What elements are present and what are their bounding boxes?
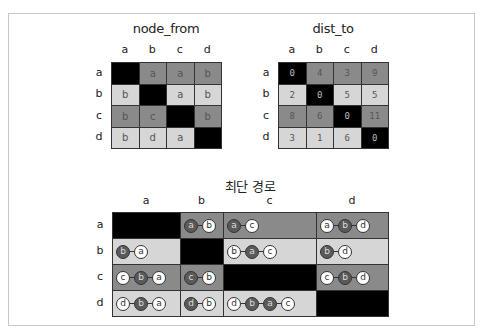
dist-to-cell: 3 (278, 127, 307, 150)
dist-to-col-header-a: a (278, 43, 306, 56)
node-from-matrix: aabbabbcbbda (111, 62, 221, 148)
dist-to-cell: 2 (278, 84, 307, 107)
shortest-path-cell: ba (112, 238, 181, 265)
path-chain: abd (320, 219, 370, 233)
node-from-cell: c (139, 105, 168, 128)
shortest-path-cell: bac (223, 238, 317, 265)
path-node-b: b (338, 219, 352, 233)
path-chain: dbac (227, 297, 295, 311)
path-node-d: d (356, 271, 370, 285)
node-from-cell: a (166, 127, 195, 150)
node-from-title: node_from (111, 21, 221, 36)
path-node-b: b (134, 297, 148, 311)
shortest-path-cell: db (180, 290, 224, 317)
path-node-b: b (320, 245, 334, 259)
path-node-b: b (338, 271, 352, 285)
dist-to-row-header-c: c (260, 109, 272, 122)
dist-to-col-header-c: c (333, 43, 361, 56)
path-chain: cbd (320, 271, 370, 285)
path-chain: bd (320, 245, 352, 259)
shortest-path-cell: bd (316, 238, 389, 265)
shortest-path-cell (112, 212, 181, 239)
node-from-cell: a (166, 84, 195, 107)
shortest-path-cell: abd (316, 212, 389, 239)
node-from-cell: b (194, 62, 223, 85)
node-from-col-header-b: b (139, 43, 167, 56)
node-from-cell: b (111, 127, 140, 150)
dist-to-cell: 11 (361, 105, 390, 128)
node-from-cell: b (111, 105, 140, 128)
node-from-cell (111, 62, 140, 85)
dist-to-cell: 5 (361, 84, 390, 107)
node-from-row-header-a: a (93, 66, 105, 79)
path-chain: ab (184, 219, 216, 233)
dist-to-cell: 6 (306, 105, 335, 128)
node-from-col-header-c: c (166, 43, 194, 56)
path-node-a: a (227, 219, 241, 233)
dist-to-cell: 6 (333, 127, 362, 150)
path-node-c: c (263, 245, 277, 259)
path-node-a: a (152, 271, 166, 285)
shortest-path-cell: cbd (316, 264, 389, 291)
shortest-path-cell: ac (223, 212, 317, 239)
shortest-path-cell: dbac (223, 290, 317, 317)
path-chain: cb (184, 271, 216, 285)
path-chain: ac (227, 219, 259, 233)
dist-to-col-header-d: d (361, 43, 389, 56)
path-node-b: b (245, 297, 259, 311)
path-node-a: a (263, 297, 277, 311)
dist-to-cell: 0 (361, 127, 390, 150)
shortest-path-cell: cb (180, 264, 224, 291)
path-node-c: c (184, 271, 198, 285)
path-node-d: d (116, 297, 130, 311)
dist-to-cell: 3 (333, 62, 362, 85)
node-from-cell: a (166, 62, 195, 85)
shortest-path-cell: cba (112, 264, 181, 291)
shortest-path-col-header-b: b (180, 194, 223, 207)
dist-to-cell: 9 (361, 62, 390, 85)
node-from-col-header-a: a (111, 43, 139, 56)
shortest-path-row-header-d: d (94, 296, 106, 309)
path-chain: db (184, 297, 216, 311)
path-node-b: b (134, 271, 148, 285)
node-from-col-header-d: d (194, 43, 222, 56)
path-chain: cba (116, 271, 166, 285)
shortest-path-matrix: abacabdbabacbdcbacbcbddbadbdbac (112, 212, 388, 316)
path-node-b: b (202, 271, 216, 285)
path-node-d: d (356, 219, 370, 233)
path-node-c: c (281, 297, 295, 311)
dist-to-matrix: 04392055860113160 (278, 62, 388, 148)
node-from-row-header-b: b (93, 87, 105, 100)
node-from-cell: b (111, 84, 140, 107)
shortest-path-cell: ab (180, 212, 224, 239)
shortest-path-cell: dba (112, 290, 181, 317)
path-node-b: b (116, 245, 130, 259)
path-node-a: a (184, 219, 198, 233)
path-node-c: c (320, 271, 334, 285)
path-node-c: c (116, 271, 130, 285)
dist-to-cell: 1 (306, 127, 335, 150)
path-node-a: a (152, 297, 166, 311)
path-node-d: d (227, 297, 241, 311)
dist-to-row-header-a: a (260, 66, 272, 79)
dist-to-col-header-b: b (306, 43, 334, 56)
dist-to-cell: 5 (333, 84, 362, 107)
shortest-path-col-header-d: d (316, 194, 388, 207)
path-node-b: b (227, 245, 241, 259)
node-from-row-header-d: d (93, 130, 105, 143)
path-node-d: d (338, 245, 352, 259)
node-from-cell: d (139, 127, 168, 150)
path-node-d: d (184, 297, 198, 311)
path-node-a: a (320, 219, 334, 233)
path-chain: ba (116, 245, 148, 259)
dist-to-cell: 0 (278, 62, 307, 85)
node-from-row-header-c: c (93, 109, 105, 122)
dist-to-cell: 0 (306, 84, 335, 107)
path-node-b: b (202, 219, 216, 233)
path-node-a: a (245, 245, 259, 259)
node-from-cell (194, 127, 223, 150)
node-from-cell: b (194, 105, 223, 128)
dist-to-row-header-b: b (260, 87, 272, 100)
dist-to-title: dist_to (278, 21, 388, 36)
path-node-a: a (134, 245, 148, 259)
